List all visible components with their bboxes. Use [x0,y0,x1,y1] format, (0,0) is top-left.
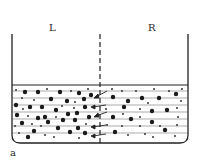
solute-particles-left [14,90,93,139]
beaker-diagram [0,0,198,161]
solvent-particles-right [105,88,183,138]
